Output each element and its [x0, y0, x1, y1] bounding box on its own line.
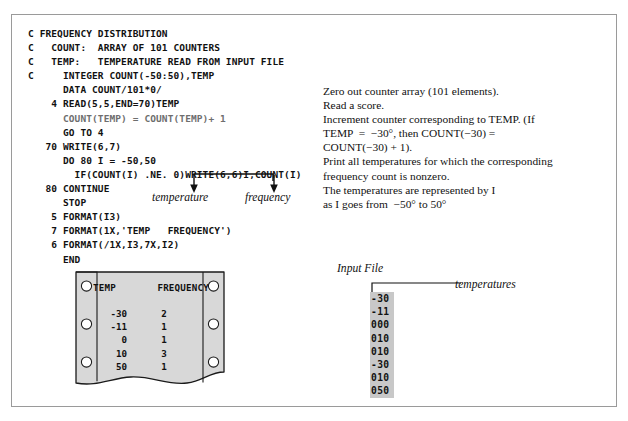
printout-header-temp: TEMP — [93, 282, 116, 293]
code-line: DATA COUNT/101*0/ — [28, 83, 302, 97]
code-commentary: Zero out counter array (101 elements).Re… — [323, 84, 623, 211]
figure-border: C FREQUENCY DISTRIBUTIONC COUNT: ARRAY O… — [11, 14, 617, 407]
temperatures-bracket-line — [371, 279, 463, 293]
printout-data-rows: -302-11101103501 — [93, 307, 205, 373]
printout-content: TEMP FREQUENCY -302-11101103501 — [75, 271, 225, 381]
printout-cell-frequency: 1 — [127, 360, 201, 373]
code-line: 5 FORMAT(I3) — [28, 210, 302, 224]
printout-header-frequency: FREQUENCY — [157, 282, 209, 293]
temperatures-annotation-label: temperatures — [455, 278, 516, 291]
code-line: END — [28, 253, 302, 267]
printout-cell-temp: -11 — [93, 320, 127, 333]
input-file-value: 010 — [370, 332, 394, 345]
printout-row: 01 — [93, 333, 205, 346]
code-line: C FREQUENCY DISTRIBUTION — [28, 27, 302, 41]
commentary-line: Print all temperatures for which the cor… — [323, 154, 623, 168]
input-file-value: 050 — [370, 384, 394, 397]
input-file-value: 000 — [370, 318, 394, 331]
printout-cell-frequency: 2 — [127, 307, 201, 320]
code-line: DO 80 I = -50,50 — [28, 154, 302, 168]
input-file-group: Input File temperatures -30-11000010010-… — [337, 262, 577, 402]
input-file-value: 010 — [370, 345, 394, 358]
commentary-line: as I goes from −50° to 50° — [323, 197, 623, 211]
commentary-line: Increment counter corresponding to TEMP.… — [323, 112, 623, 126]
temperature-callout-label: temperature — [152, 191, 208, 204]
fortran-code-listing: C FREQUENCY DISTRIBUTIONC COUNT: ARRAY O… — [28, 27, 302, 267]
printout-cell-frequency: 1 — [127, 333, 201, 346]
code-line: COUNT(TEMP) = COUNT(TEMP)+ 1 — [28, 112, 302, 126]
code-line: 4 READ(5,5,END=70)TEMP — [28, 97, 302, 111]
input-file-value: -11 — [370, 305, 394, 318]
printout-row: -302 — [93, 307, 205, 320]
input-file-title: Input File — [337, 262, 383, 275]
printout-row: -111 — [93, 320, 205, 333]
code-line: C INTEGER COUNT(-50:50),TEMP — [28, 69, 302, 83]
printout-cell-temp: 50 — [93, 360, 127, 373]
printout-cell-temp: 10 — [93, 347, 127, 360]
code-line: GO TO 4 — [28, 126, 302, 140]
code-line: C COUNT: ARRAY OF 101 COUNTERS — [28, 41, 302, 55]
code-line: C TEMP: TEMPERATURE READ FROM INPUT FILE — [28, 55, 302, 69]
commentary-line: Zero out counter array (101 elements). — [323, 84, 623, 98]
commentary-line: TEMP = −30°, then COUNT(−30) = — [323, 126, 623, 140]
printer-output-paper: TEMP FREQUENCY -302-11101103501 — [75, 271, 225, 399]
printout-cell-temp: -30 — [93, 307, 127, 320]
input-file-value: 010 — [370, 371, 394, 384]
printout-cell-frequency: 1 — [127, 320, 201, 333]
printout-cell-temp: 0 — [93, 333, 127, 346]
printout-row: 501 — [93, 360, 205, 373]
code-line: 70 WRITE(6,7) — [28, 140, 302, 154]
code-line: 6 FORMAT(/1X,I3,7X,I2) — [28, 238, 302, 252]
printout-row: 103 — [93, 347, 205, 360]
code-line: 7 FORMAT(1X,'TEMP FREQUENCY') — [28, 224, 302, 238]
commentary-line: The temperatures are represented by I — [323, 183, 623, 197]
input-file-values: -30-11000010010-30010050 — [370, 292, 394, 398]
printout-column-headers: TEMP FREQUENCY — [93, 282, 209, 293]
commentary-line: Read a score. — [323, 98, 623, 112]
commentary-line: frequency count is nonzero. — [323, 169, 623, 183]
frequency-callout-label: frequency — [245, 191, 290, 204]
input-file-value: -30 — [370, 358, 394, 371]
printout-cell-frequency: 3 — [127, 347, 201, 360]
commentary-line: COUNT(−30) + 1). — [323, 140, 623, 154]
input-file-value: -30 — [370, 292, 394, 305]
